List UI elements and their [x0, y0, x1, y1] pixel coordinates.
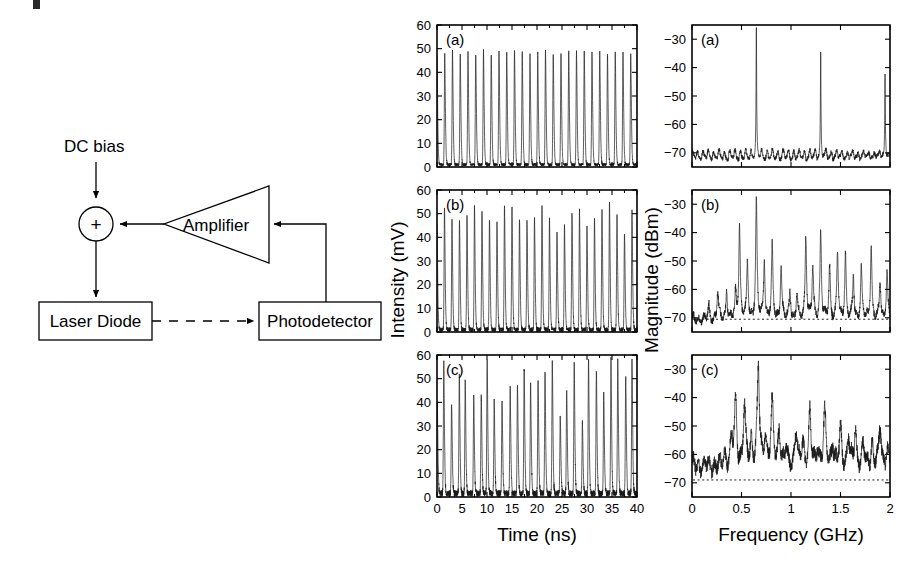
y-tick-label: 40 — [417, 230, 431, 245]
y-tick-label: −70 — [664, 145, 686, 160]
dc-bias-label: DC bias — [64, 137, 124, 156]
plot-frame — [692, 25, 890, 167]
panel-spectrum-a: −70−60−50−40−30(a) — [664, 25, 890, 167]
y-tick-label: 40 — [417, 65, 431, 80]
y-tick-label: −70 — [664, 475, 686, 490]
y-tick-label: −30 — [664, 362, 686, 377]
y-tick-label: 10 — [417, 301, 431, 316]
panel-spectrum-c: 00.511.52−70−60−50−40−30(c) — [664, 355, 894, 516]
y-tick-label: 10 — [417, 136, 431, 151]
y-tick-label: 50 — [417, 371, 431, 386]
y-tick-label: 50 — [417, 206, 431, 221]
x-axis-title-time: Time (ns) — [497, 524, 577, 545]
amplifier-label: Amplifier — [183, 216, 249, 235]
x-tick-label: 15 — [505, 501, 519, 516]
x-tick-label: 0 — [433, 501, 440, 516]
y-tick-label: 10 — [417, 466, 431, 481]
x-tick-label: 10 — [480, 501, 494, 516]
data-trace — [692, 28, 890, 162]
data-trace — [692, 197, 890, 326]
laser-diode-label: Laser Diode — [50, 312, 142, 331]
y-tick-label: −60 — [664, 282, 686, 297]
summing-junction-plus-symbol: + — [90, 214, 101, 235]
system-schematic: DC bias + Laser Diode Photodetector Ampl… — [0, 0, 400, 561]
panel-timeseries-a: 0102030405060(a) — [417, 18, 637, 175]
panel-label: (a) — [446, 31, 464, 48]
y-tick-label: 0 — [424, 325, 431, 340]
x-tick-label: 2 — [886, 501, 893, 516]
y-axis-title-intensity: Intensity (mV) — [390, 221, 408, 338]
y-tick-label: 0 — [424, 490, 431, 505]
panel-label: (b) — [446, 196, 464, 213]
y-tick-label: −40 — [664, 390, 686, 405]
data-trace — [692, 361, 890, 479]
y-axis-title-magnitude: Magnitude (dBm) — [641, 207, 662, 353]
y-tick-label: −70 — [664, 310, 686, 325]
panel-label: (c) — [701, 361, 719, 378]
y-tick-label: 60 — [417, 348, 431, 363]
y-tick-label: 20 — [417, 112, 431, 127]
x-tick-label: 1 — [787, 501, 794, 516]
panel-spectrum-b: −70−60−50−40−30(b) — [664, 190, 890, 332]
plot-frame — [692, 355, 890, 497]
panel-timeseries-c: 05101520253035400102030405060(c) — [417, 348, 645, 517]
y-tick-label: 30 — [417, 419, 431, 434]
plot-frame — [437, 190, 637, 332]
panel-label: (c) — [446, 361, 464, 378]
x-tick-label: 20 — [530, 501, 544, 516]
y-tick-label: 60 — [417, 183, 431, 198]
y-tick-label: 20 — [417, 277, 431, 292]
y-tick-label: 20 — [417, 442, 431, 457]
x-tick-label: 0 — [688, 501, 695, 516]
photodetector-to-amplifier-connector — [274, 224, 326, 302]
y-tick-label: 30 — [417, 254, 431, 269]
plot-grid: 0102030405060(a)0102030405060(b)05101520… — [390, 0, 905, 561]
x-tick-label: 1.5 — [831, 501, 849, 516]
y-tick-label: −50 — [664, 254, 686, 269]
plot-frame-overlay — [692, 25, 890, 167]
plot-frame-overlay — [692, 355, 890, 497]
data-trace — [437, 49, 637, 166]
y-tick-label: −60 — [664, 117, 686, 132]
x-tick-label: 35 — [605, 501, 619, 516]
x-tick-label: 5 — [458, 501, 465, 516]
y-tick-label: −50 — [664, 89, 686, 104]
x-tick-label: 30 — [580, 501, 594, 516]
y-tick-label: −30 — [664, 197, 686, 212]
x-axis-title-frequency: Frequency (GHz) — [718, 524, 864, 545]
y-tick-label: −60 — [664, 447, 686, 462]
y-tick-label: 30 — [417, 89, 431, 104]
y-tick-label: −50 — [664, 419, 686, 434]
x-tick-label: 25 — [555, 501, 569, 516]
x-tick-label: 0.5 — [732, 501, 750, 516]
data-trace — [437, 202, 637, 332]
x-tick-label: 40 — [630, 501, 644, 516]
photodetector-label: Photodetector — [267, 312, 373, 331]
panel-label: (a) — [701, 31, 719, 48]
y-tick-label: −40 — [664, 60, 686, 75]
y-tick-label: 50 — [417, 41, 431, 56]
y-tick-label: 60 — [417, 18, 431, 33]
plot-frame-overlay — [437, 190, 637, 332]
y-tick-label: −40 — [664, 225, 686, 240]
y-tick-label: 40 — [417, 395, 431, 410]
data-trace — [437, 357, 637, 496]
figure-root: DC bias + Laser Diode Photodetector Ampl… — [0, 0, 905, 561]
y-tick-label: 0 — [424, 160, 431, 175]
panel-timeseries-b: 0102030405060(b) — [417, 183, 637, 340]
panel-label: (b) — [701, 196, 719, 213]
y-tick-label: −30 — [664, 32, 686, 47]
